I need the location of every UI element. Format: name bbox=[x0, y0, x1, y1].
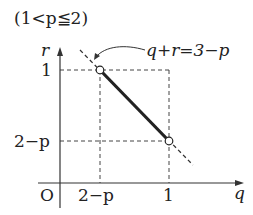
line-equation-label: q+r=3−p bbox=[146, 42, 229, 59]
open-circle-start bbox=[96, 66, 104, 74]
x-tick-1: 1 bbox=[163, 187, 174, 204]
equation-leader-curve bbox=[96, 47, 145, 57]
y-axis-arrow-icon bbox=[57, 47, 63, 56]
axes bbox=[38, 47, 244, 208]
y-axis-label: r bbox=[41, 42, 49, 59]
y-tick-1: 1 bbox=[41, 62, 52, 79]
condition-label: (1<p≦2) bbox=[14, 10, 88, 27]
solution-segment bbox=[100, 70, 169, 141]
open-circle-end bbox=[165, 137, 173, 145]
origin-label: O bbox=[40, 187, 54, 204]
x-tick-2-minus-p: 2−p bbox=[78, 187, 114, 204]
x-axis-label: q bbox=[234, 185, 245, 202]
y-tick-2-minus-p: 2−p bbox=[14, 133, 50, 150]
graph-canvas bbox=[0, 0, 253, 215]
